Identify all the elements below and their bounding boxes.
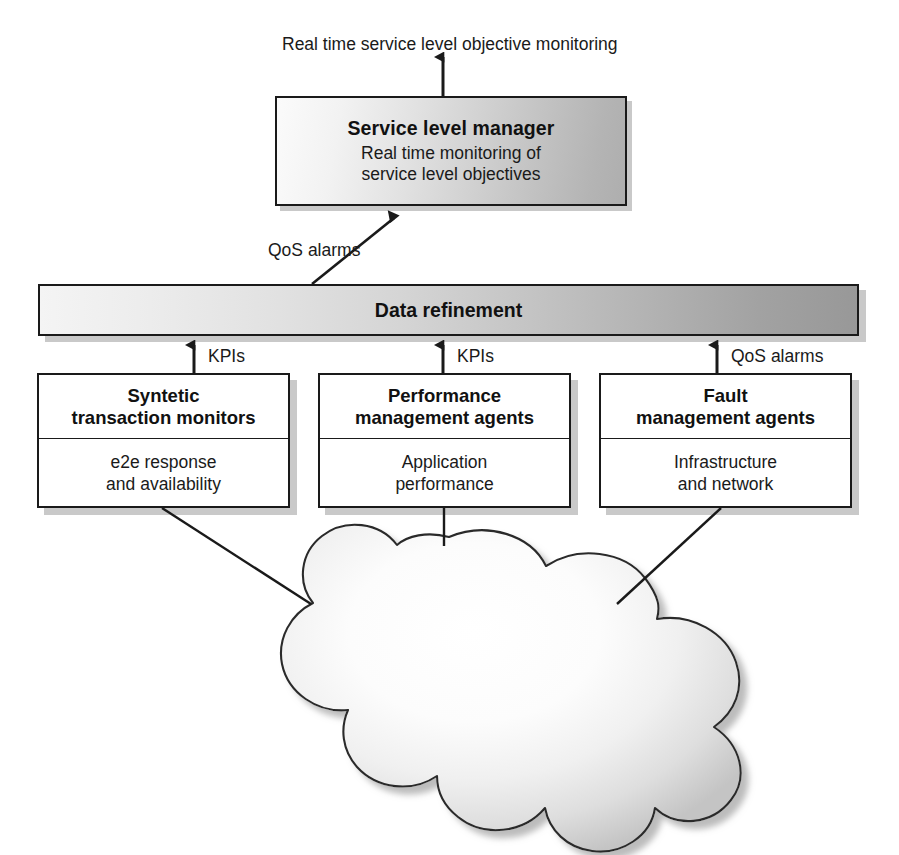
performance-agents-body-line2: performance [395, 474, 493, 494]
service-network-label-line2: network [350, 708, 550, 732]
performance-agents-body-line1: Application [402, 452, 488, 472]
service-level-manager-title: Service level manager [348, 117, 555, 140]
top-output-label: Real time service level objective monito… [282, 34, 618, 55]
edge-label-kpis-performance: KPIs [457, 346, 494, 367]
service-network-label-line1: Service [350, 660, 550, 684]
edge-fault-to-service-network [617, 508, 721, 604]
fault-agents-title-line2: management agents [636, 407, 815, 428]
data-refinement-label: Data refinement [375, 299, 522, 322]
synthetic-monitors-body-line1: e2e response [110, 452, 216, 472]
edge-label-kpis-synthetic: KPIs [208, 346, 245, 367]
synthetic-monitors-body-line2: and availability [106, 474, 221, 494]
performance-management-agents-node[interactable]: Performance management agents Applicatio… [318, 373, 571, 508]
service-level-manager-node[interactable]: Service level manager Real time monitori… [275, 96, 627, 206]
service-level-manager-subtitle-line2: service level objectives [362, 164, 541, 186]
edge-label-qos-alarms-fault: QoS alarms [731, 346, 823, 367]
service-level-manager-subtitle-line1: Real time monitoring of [361, 143, 541, 165]
edge-label-qos-alarms-to-slm: QoS alarms [268, 240, 360, 261]
synthetic-transaction-monitors-node[interactable]: Syntetic transaction monitors e2e respon… [37, 373, 290, 508]
fault-management-agents-node[interactable]: Fault management agents Infrastructure a… [599, 373, 852, 508]
synthetic-monitors-header: Syntetic transaction monitors [39, 375, 288, 439]
diagram-canvas: Real time service level objective monito… [0, 0, 899, 855]
synthetic-monitors-title-line2: transaction monitors [72, 407, 256, 428]
performance-agents-title-line1: Performance [388, 385, 501, 406]
fault-agents-body: Infrastructure and network [601, 439, 850, 506]
performance-agents-body: Application performance [320, 439, 569, 506]
performance-agents-header: Performance management agents [320, 375, 569, 439]
edge-synthetic-to-service-network [162, 508, 311, 604]
fault-agents-header: Fault management agents [601, 375, 850, 439]
fault-agents-title-line1: Fault [703, 385, 747, 406]
synthetic-monitors-title-line1: Syntetic [128, 385, 200, 406]
data-refinement-node[interactable]: Data refinement [38, 284, 859, 336]
synthetic-monitors-body: e2e response and availability [39, 439, 288, 506]
service-network-label: Service network [350, 636, 550, 756]
fault-agents-body-line2: and network [678, 474, 773, 494]
performance-agents-title-line2: management agents [355, 407, 534, 428]
fault-agents-body-line1: Infrastructure [674, 452, 777, 472]
